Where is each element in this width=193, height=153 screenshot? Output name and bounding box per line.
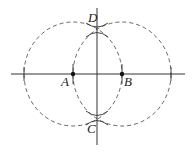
diagram-canvas: A B C D xyxy=(0,0,193,153)
label-b: B xyxy=(124,74,132,89)
label-d: D xyxy=(87,10,98,25)
label-a: A xyxy=(60,74,69,89)
point-a-dot xyxy=(71,72,75,76)
label-c: C xyxy=(87,121,96,136)
